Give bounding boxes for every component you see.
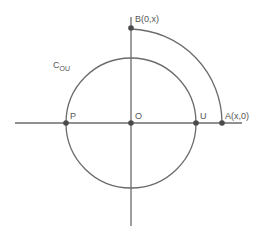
point-a: [219, 120, 225, 126]
point-o: [128, 120, 134, 126]
label-b: B(0,x): [135, 14, 159, 24]
label-o: O: [135, 111, 142, 121]
label-circle-c-sub: OU: [60, 65, 71, 72]
label-circle-c: COU: [53, 60, 70, 72]
label-p: P: [70, 111, 76, 121]
label-a: A(x,0): [225, 111, 249, 121]
point-p: [63, 120, 69, 126]
point-b: [128, 25, 134, 31]
diagram-canvas: B(0,x) COU P O U A(x,0): [0, 0, 268, 240]
point-u: [193, 120, 199, 126]
label-u: U: [200, 111, 207, 121]
